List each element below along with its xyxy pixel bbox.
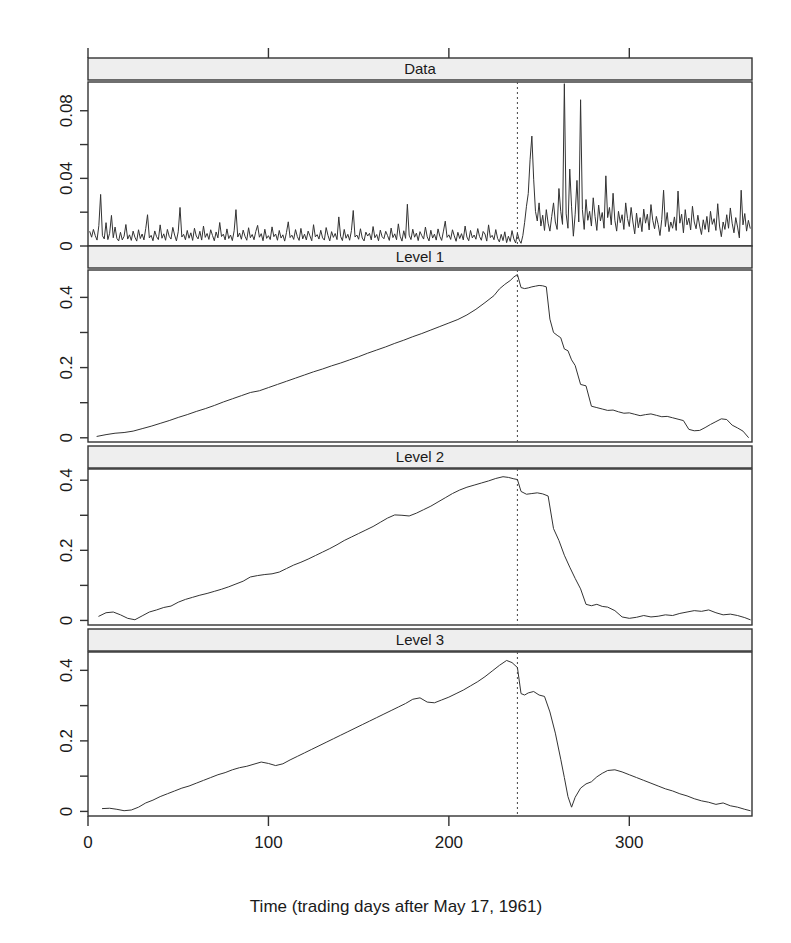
chart-canvas: Data00.040.08Level 100.20.4Level 200.20.… bbox=[0, 0, 791, 943]
y-tick-label: 0.08 bbox=[57, 94, 76, 127]
y-tick-label: 0 bbox=[57, 807, 76, 816]
y-tick-label: 0.4 bbox=[57, 286, 76, 310]
y-tick-label: 0.4 bbox=[57, 659, 76, 683]
panel-title-1: Data bbox=[404, 60, 436, 77]
x-axis-label: Time (trading days after May 17, 1961) bbox=[250, 897, 542, 916]
y-tick-label: 0.2 bbox=[57, 729, 76, 753]
figure-background bbox=[0, 0, 791, 943]
y-tick-label: 0.4 bbox=[57, 468, 76, 492]
y-tick-label: 0.2 bbox=[57, 356, 76, 380]
y-tick-label: 0 bbox=[57, 616, 76, 625]
x-tick-label: 100 bbox=[254, 833, 282, 852]
x-tick-label: 300 bbox=[615, 833, 643, 852]
panel-title-3: Level 2 bbox=[396, 448, 444, 465]
y-tick-label: 0 bbox=[57, 433, 76, 442]
panel-title-4: Level 3 bbox=[396, 631, 444, 648]
multi-panel-timeseries-figure: Data00.040.08Level 100.20.4Level 200.20.… bbox=[0, 0, 791, 943]
y-tick-label: 0.2 bbox=[57, 539, 76, 563]
x-tick-label: 200 bbox=[435, 833, 463, 852]
y-tick-label: 0.04 bbox=[57, 162, 76, 195]
x-tick-label: 0 bbox=[83, 833, 92, 852]
panel-title-2: Level 1 bbox=[396, 248, 444, 265]
y-tick-label: 0 bbox=[57, 241, 76, 250]
